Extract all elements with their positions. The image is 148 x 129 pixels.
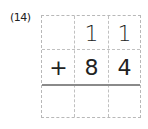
answer-cell-1[interactable] xyxy=(42,85,75,119)
cell-r2-c2: 8 xyxy=(75,50,108,84)
cell-r1-c1 xyxy=(42,16,75,50)
problem-label: (14) xyxy=(10,11,31,24)
answer-cell-2[interactable] xyxy=(75,85,108,119)
cell-r1-c3: 1 xyxy=(108,16,141,50)
cell-r2-c3: 4 xyxy=(108,50,141,84)
addition-grid: 1 1 + 8 4 xyxy=(41,15,141,118)
answer-cell-3[interactable] xyxy=(108,85,141,119)
plus-sign: + xyxy=(42,50,75,84)
cell-r1-c2: 1 xyxy=(75,16,108,50)
